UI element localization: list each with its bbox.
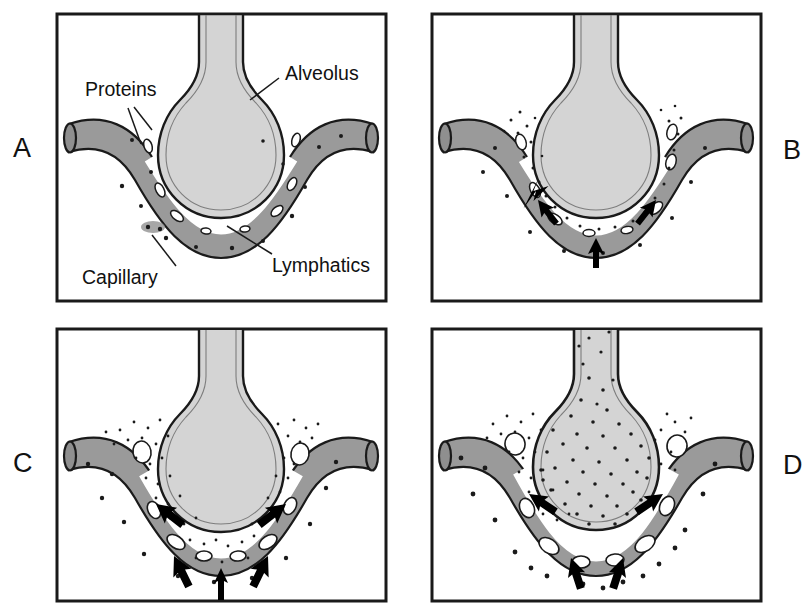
panel-letter-d: D [783, 450, 803, 481]
panel-letter-b: B [783, 135, 802, 166]
capillary-a-end-left [64, 124, 76, 153]
label-alveolus: Alveolus [285, 62, 359, 84]
label-proteins: Proteins [85, 78, 157, 100]
panel-b [432, 14, 761, 301]
panel-letter-a: A [13, 133, 32, 164]
pulmonary-edema-figure: A B C D [0, 0, 812, 615]
figure-canvas: Proteins Alveolus Capillary Lymphatics [0, 0, 812, 615]
panel-a: Proteins Alveolus Capillary Lymphatics [57, 14, 386, 301]
label-capillary: Capillary [82, 266, 158, 288]
capillary-a-end-right [366, 124, 378, 153]
label-lymphatics: Lymphatics [272, 254, 370, 276]
panel-letter-c: C [13, 448, 33, 479]
panel-c [57, 328, 386, 601]
panel-d [432, 326, 761, 601]
